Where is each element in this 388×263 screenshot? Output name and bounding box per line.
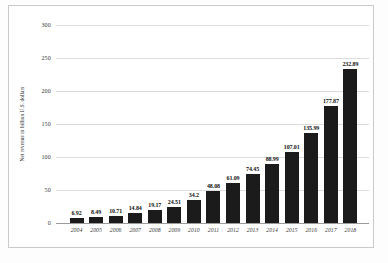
bar-group: 24.512009 <box>165 25 185 223</box>
y-axis-tick-label: 100 <box>41 154 51 160</box>
bar-value-label: 88.99 <box>266 156 279 162</box>
axis-baseline <box>56 223 369 224</box>
bar[interactable] <box>128 213 142 223</box>
x-axis-tick-label: 2013 <box>247 227 259 233</box>
bar-value-label: 34.2 <box>189 192 199 198</box>
bar[interactable] <box>304 133 318 223</box>
bar-group: 88.992014 <box>262 25 282 223</box>
x-axis-tick-label: 2004 <box>71 227 83 233</box>
x-axis-tick-label: 2016 <box>305 227 317 233</box>
bar-value-label: 177.87 <box>323 98 339 104</box>
bar-group: 34.22010 <box>184 25 204 223</box>
bar-group: 6.922004 <box>67 25 87 223</box>
plot-area: 050100150200250300 6.9220048.49200510.71… <box>56 25 369 223</box>
y-axis-tick-label: 0 <box>48 220 51 226</box>
bar-group: 107.012015 <box>282 25 302 223</box>
bar-value-label: 61.09 <box>227 175 240 181</box>
bar-group: 8.492005 <box>86 25 106 223</box>
bar[interactable] <box>265 164 279 223</box>
bar-value-label: 232.89 <box>342 61 358 67</box>
page-canvas: Net revenue in billion U.S. dollars 0501… <box>0 0 388 263</box>
bar-value-label: 19.17 <box>148 202 161 208</box>
bar[interactable] <box>70 218 84 223</box>
bar-group: 48.082011 <box>204 25 224 223</box>
bar-value-label: 10.71 <box>109 208 122 214</box>
x-axis-tick-label: 2014 <box>266 227 278 233</box>
bar-group: 74.452013 <box>243 25 263 223</box>
bar-group: 61.092012 <box>223 25 243 223</box>
bar-value-label: 14.84 <box>129 205 142 211</box>
bar-value-label: 48.08 <box>207 183 220 189</box>
x-axis-tick-label: 2006 <box>110 227 122 233</box>
bar-value-label: 74.45 <box>246 166 259 172</box>
bar[interactable] <box>109 216 123 223</box>
y-axis-title: Net revenue in billion U.S. dollars <box>19 87 25 162</box>
x-axis-tick-label: 2012 <box>227 227 239 233</box>
x-axis-tick-label: 2015 <box>286 227 298 233</box>
bar-group: 177.872017 <box>321 25 341 223</box>
y-axis-tick-label: 150 <box>41 121 51 127</box>
bar-group: 135.992016 <box>302 25 322 223</box>
bar-value-label: 24.51 <box>168 199 181 205</box>
x-axis-tick-label: 2008 <box>149 227 161 233</box>
y-axis-tick-label: 300 <box>41 22 51 28</box>
bar-group: 232.892018 <box>341 25 361 223</box>
bar[interactable] <box>89 217 103 223</box>
bar[interactable] <box>285 152 299 223</box>
bar[interactable] <box>148 210 162 223</box>
bar-value-label: 107.01 <box>284 144 300 150</box>
bar-group: 19.172008 <box>145 25 165 223</box>
bar[interactable] <box>187 200 201 223</box>
bar[interactable] <box>246 174 260 223</box>
x-axis-tick-label: 2018 <box>345 227 357 233</box>
bar-series: 6.9220048.49200510.71200614.84200719.172… <box>56 25 369 223</box>
x-axis-tick-label: 2009 <box>169 227 181 233</box>
x-axis-tick-label: 2017 <box>325 227 337 233</box>
bar[interactable] <box>343 69 357 223</box>
bar-value-label: 8.49 <box>91 209 101 215</box>
bar-value-label: 6.92 <box>71 210 81 216</box>
x-axis-tick-label: 2010 <box>188 227 200 233</box>
bar[interactable] <box>324 106 338 223</box>
x-axis-tick-label: 2005 <box>90 227 102 233</box>
bar-value-label: 135.99 <box>303 125 319 131</box>
bar-group: 14.842007 <box>125 25 145 223</box>
y-axis-tick-label: 50 <box>45 187 51 193</box>
x-axis-tick-label: 2007 <box>129 227 141 233</box>
bar[interactable] <box>226 183 240 223</box>
bar[interactable] <box>167 207 181 223</box>
y-axis-tick-label: 200 <box>41 88 51 94</box>
bar[interactable] <box>206 191 220 223</box>
y-axis-tick-label: 250 <box>41 55 51 61</box>
x-axis-tick-label: 2011 <box>208 227 219 233</box>
chart-frame: Net revenue in billion U.S. dollars 0501… <box>8 5 374 248</box>
bar-group: 10.712006 <box>106 25 126 223</box>
